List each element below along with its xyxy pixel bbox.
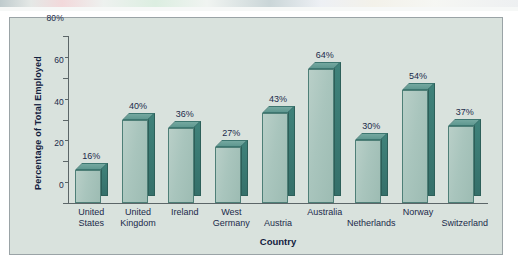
bar-value-label: 27%: [208, 128, 254, 138]
bar-side-face: [428, 83, 435, 196]
scan-artifact-strip-secondary: [0, 7, 518, 11]
bar-front-face: [262, 113, 288, 203]
bar-column[interactable]: [402, 83, 435, 203]
bar-front-face: [402, 90, 428, 203]
bar-value-label: 36%: [162, 109, 208, 119]
bar-side-face: [194, 121, 201, 196]
bar-side-face: [334, 62, 341, 196]
bars-layer: 16%40%36%27%43%64%30%54%37%: [68, 36, 488, 203]
bar-column[interactable]: [262, 106, 295, 203]
bar-column[interactable]: [122, 113, 155, 204]
bar-column[interactable]: [355, 133, 388, 203]
bar-column[interactable]: [75, 163, 108, 203]
bar-front-face: [215, 147, 241, 203]
x-category-label: Norway: [383, 207, 453, 218]
bar-front-face: [122, 120, 148, 204]
y-axis-title: Percentage of Total Employed: [33, 48, 43, 198]
y-tick-label: 40: [54, 97, 64, 107]
bar-front-face: [448, 126, 474, 203]
bar-front-face: [308, 69, 334, 203]
bar-side-face: [148, 113, 155, 197]
category-labels-layer: UnitedStatesUnitedKingdomIrelandWestGerm…: [68, 207, 488, 237]
plot-area: 80%6040200 Percentage of Total Employed …: [10, 18, 502, 254]
bar-value-label: 16%: [68, 151, 114, 161]
bar-column[interactable]: [215, 140, 248, 203]
bar-value-label: 40%: [115, 101, 161, 111]
x-category-label: Netherlands: [336, 218, 406, 229]
bar-side-face: [381, 133, 388, 196]
bar-value-label: 64%: [302, 50, 348, 60]
y-tick-label: 20: [54, 138, 64, 148]
x-category-label: Austria: [243, 218, 313, 229]
bar-side-face: [474, 119, 481, 196]
bar-column[interactable]: [308, 62, 341, 203]
bar-front-face: [355, 140, 381, 203]
bar-side-face: [288, 106, 295, 196]
x-axis-line: [68, 203, 488, 204]
bar-top-face: [122, 113, 155, 120]
bar-front-face: [168, 128, 194, 203]
y-tick-major: [63, 203, 68, 204]
bar-value-label: 54%: [395, 71, 441, 81]
bar-side-face: [241, 140, 248, 196]
bar-value-label: 30%: [348, 121, 394, 131]
x-axis-title: Country: [68, 236, 488, 247]
y-tick-label: 0: [59, 180, 64, 190]
chart-figure-frame: 80%6040200 Percentage of Total Employed …: [9, 17, 503, 255]
bar-column[interactable]: [448, 119, 481, 203]
bar-front-face: [75, 170, 101, 203]
y-tick-label: 80%: [46, 13, 64, 23]
scan-artifact-strip-top: [0, 0, 518, 7]
bar-value-label: 37%: [442, 107, 488, 117]
y-tick-label: 60: [54, 55, 64, 65]
x-category-label-line2: Kingdom: [103, 218, 173, 229]
bar-column[interactable]: [168, 121, 201, 203]
x-category-label: Australia: [290, 207, 360, 218]
bar-value-label: 43%: [255, 94, 301, 104]
x-category-label: Switzerland: [430, 218, 500, 229]
